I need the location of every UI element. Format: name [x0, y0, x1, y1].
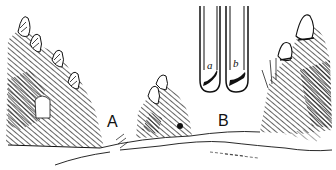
illustration-drawing: [0, 0, 336, 170]
label-tube-b: b: [233, 58, 239, 69]
middle-bush: [136, 75, 192, 138]
test-tube-b: [226, 6, 248, 92]
left-rock-formation: [6, 17, 104, 148]
test-tube-a: [200, 6, 220, 92]
label-region-a: A: [107, 114, 118, 130]
label-region-b: B: [218, 113, 229, 129]
label-tube-a: a: [207, 60, 213, 71]
illustration-canvas: A B a b: [0, 0, 336, 170]
right-rock-formation: [260, 15, 332, 142]
